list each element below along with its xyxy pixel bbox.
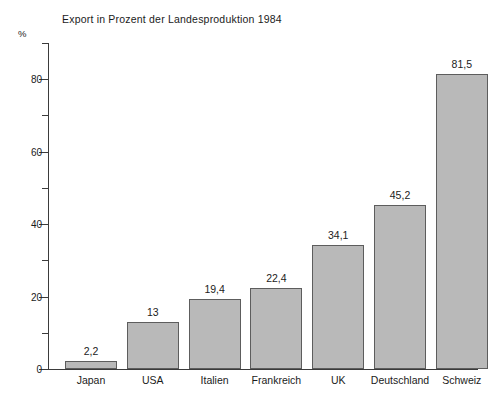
bar-value-label: 81,5 xyxy=(452,58,472,70)
bar-group: 19,4Italien xyxy=(189,22,241,369)
bar-value-label: 45,2 xyxy=(390,189,410,201)
y-axis-line xyxy=(48,44,49,370)
x-axis-category-label: Schweiz xyxy=(442,374,481,386)
bar-group: 34,1UK xyxy=(312,22,364,369)
bar-group: 13USA xyxy=(127,22,179,369)
x-axis-category-label: USA xyxy=(142,374,164,386)
x-axis-category-label: Frankreich xyxy=(252,374,302,386)
x-axis-category-label: Deutschland xyxy=(371,374,429,386)
y-tick-label: 40 xyxy=(31,219,42,230)
bar xyxy=(65,361,117,369)
bar-group: 2,2Japan xyxy=(65,22,117,369)
y-tick-mark xyxy=(42,333,49,334)
x-axis-category-label: Italien xyxy=(201,374,229,386)
y-tick-mark xyxy=(42,115,49,116)
bar-group: 45,2Deutschland xyxy=(374,22,426,369)
bar xyxy=(436,74,488,369)
x-axis-category-label: UK xyxy=(331,374,346,386)
bar-value-label: 34,1 xyxy=(328,229,348,241)
bar-value-label: 13 xyxy=(147,306,159,318)
y-tick-label: 80 xyxy=(31,74,42,85)
y-tick-mark xyxy=(42,188,49,189)
bar xyxy=(127,322,179,369)
y-tick-label: 60 xyxy=(31,146,42,157)
y-axis-unit-label: % xyxy=(18,28,26,39)
bar-value-label: 19,4 xyxy=(204,283,224,295)
bar-group: 22,4Frankreich xyxy=(250,22,302,369)
y-tick-mark xyxy=(42,43,49,44)
bar xyxy=(189,299,241,369)
x-axis-category-label: Japan xyxy=(77,374,106,386)
y-tick-mark xyxy=(42,260,49,261)
y-tick-label: 20 xyxy=(31,291,42,302)
x-axis-line xyxy=(48,369,478,370)
bar xyxy=(312,245,364,369)
bar-group: 81,5Schweiz xyxy=(436,22,488,369)
bar-value-label: 22,4 xyxy=(266,272,286,284)
bar xyxy=(250,288,302,369)
bar xyxy=(374,205,426,369)
bar-value-label: 2,2 xyxy=(84,345,99,357)
chart-page: % Export in Prozent der Landesproduktion… xyxy=(0,0,488,413)
plot-area: 020406080 2,2Japan13USA19,4Italien22,4Fr… xyxy=(48,22,478,370)
y-tick-label: 0 xyxy=(36,364,42,375)
